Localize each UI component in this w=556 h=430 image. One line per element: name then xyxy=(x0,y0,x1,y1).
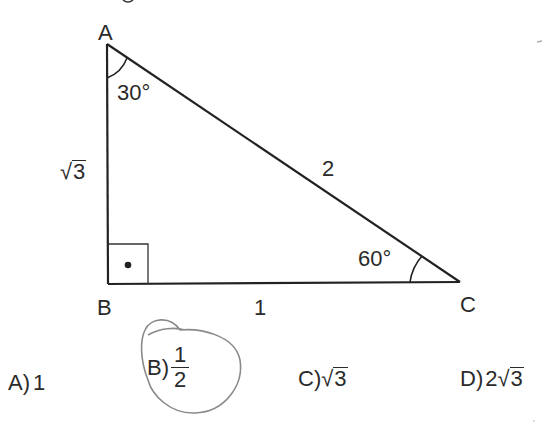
vertex-label-b: B xyxy=(97,297,112,319)
angle-arc-c xyxy=(410,256,422,282)
sqrt-icon: √ xyxy=(497,368,509,390)
option-d[interactable]: D)2 √3 xyxy=(460,367,524,390)
angle-arc-a xyxy=(107,58,127,78)
option-a[interactable]: A)1 xyxy=(8,372,45,394)
option-c[interactable]: C) √3 xyxy=(298,367,348,390)
cropped-glyph xyxy=(123,0,133,2)
sqrt-icon: √ xyxy=(321,368,333,390)
vertex-label-c: C xyxy=(460,294,476,316)
side-label-ab: √3 xyxy=(60,160,86,183)
side-ac xyxy=(107,44,460,282)
fraction: 1 2 xyxy=(171,344,189,391)
stray-mark xyxy=(537,41,542,42)
side-ab xyxy=(107,44,108,284)
angle-label-a: 30° xyxy=(117,82,150,104)
sqrt-icon: √ xyxy=(60,161,72,183)
sqrt-expression: √3 xyxy=(60,160,86,183)
side-bc xyxy=(108,282,460,284)
option-b[interactable]: B) 1 2 xyxy=(147,344,189,391)
angle-label-c: 60° xyxy=(358,248,391,270)
side-label-bc: 1 xyxy=(254,297,266,319)
right-angle-dot xyxy=(125,262,132,269)
side-label-ac: 2 xyxy=(322,158,334,180)
sqrt-expression: √3 xyxy=(321,367,347,390)
sqrt-expression: √3 xyxy=(497,367,523,390)
vertex-label-a: A xyxy=(98,22,113,44)
